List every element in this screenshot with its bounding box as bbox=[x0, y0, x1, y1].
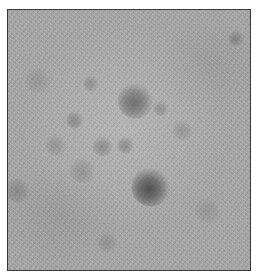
dark-spot bbox=[98, 232, 119, 253]
dark-spot bbox=[25, 67, 51, 93]
dark-spot bbox=[46, 135, 67, 156]
dark-spot bbox=[83, 75, 99, 91]
dark-spot bbox=[132, 168, 171, 207]
image-frame bbox=[7, 9, 251, 271]
dark-spot bbox=[173, 120, 194, 141]
dark-spot bbox=[195, 197, 221, 223]
dark-spot bbox=[228, 30, 244, 46]
dark-spot bbox=[93, 136, 114, 157]
dark-spot bbox=[153, 100, 169, 116]
dark-spot bbox=[70, 157, 96, 183]
